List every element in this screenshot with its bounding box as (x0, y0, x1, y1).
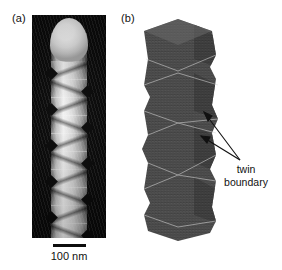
scalebar-line (53, 244, 86, 247)
figure-canvas: (a) 100 nm (b) (0, 0, 282, 270)
twin-annotation-line-2: boundary (213, 176, 279, 189)
twin-annotation-line-1: twin (213, 163, 279, 176)
scalebar-group: 100 nm (32, 244, 106, 262)
panel-label-a: (a) (12, 13, 26, 24)
twin-boundary-arrowhead-lower (201, 136, 210, 143)
sem-micrograph-panel (32, 15, 106, 238)
twin-boundary-annotation: twin boundary (213, 163, 279, 189)
scalebar-label: 100 nm (32, 250, 106, 262)
panel-label-b: (b) (121, 13, 135, 24)
sem-vignette (32, 15, 106, 238)
twin-boundary-arrowhead-upper (204, 112, 212, 121)
